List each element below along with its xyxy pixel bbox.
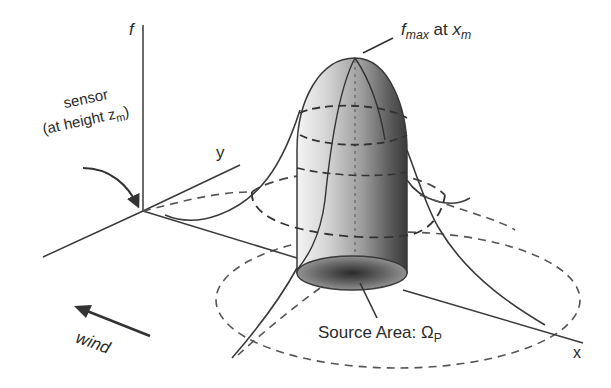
sensor-arrow	[83, 168, 138, 206]
omega-sub: P	[434, 331, 442, 345]
source-area-text: Source Area:	[318, 323, 421, 342]
peak-f-sub: max	[406, 28, 429, 42]
peak-at: at	[429, 20, 453, 39]
crosswind-dash-left	[143, 192, 252, 211]
crosswind-profile-left	[165, 110, 300, 220]
y-axis-negative	[43, 211, 143, 257]
along-wind-profile-left	[232, 268, 297, 358]
crosswind-profile-right	[407, 180, 470, 203]
peak-x: x	[452, 20, 461, 39]
omega-symbol: Ω	[421, 323, 434, 342]
source-area-base	[297, 256, 407, 290]
x-axis-label: x	[573, 344, 581, 362]
peak-label: fmax at xm	[401, 20, 471, 42]
peak-leader-line	[363, 38, 393, 53]
f-axis-label: f	[129, 20, 134, 40]
x-axis-behind	[143, 211, 297, 258]
along-wind-profile-right	[407, 150, 545, 325]
diagram-canvas	[0, 0, 611, 388]
y-axis	[143, 165, 240, 211]
peak-x-sub: m	[461, 28, 471, 42]
source-area-label: Source Area: ΩP	[318, 323, 442, 345]
footprint-diagram: f y x fmax at xm sensor (at height zm) S…	[0, 0, 611, 388]
y-axis-label: y	[216, 143, 225, 163]
source-cylinder	[297, 58, 407, 273]
